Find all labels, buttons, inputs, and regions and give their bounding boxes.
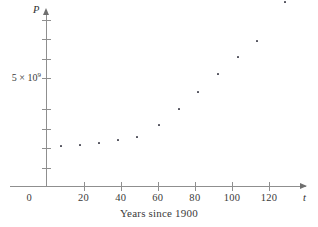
y-tick xyxy=(42,129,51,130)
data-point xyxy=(284,1,287,4)
x-tick xyxy=(84,182,85,191)
y-tick xyxy=(42,59,51,60)
x-tick-label: 20 xyxy=(69,192,99,203)
y-tick-label-5e9: 5 × 109 xyxy=(0,71,41,83)
data-point xyxy=(217,73,220,76)
data-point xyxy=(79,144,82,147)
data-point xyxy=(237,56,240,59)
y-tick-label-mantissa: 5 × 10 xyxy=(12,72,38,83)
data-point xyxy=(256,40,259,43)
x-tick-label: 40 xyxy=(106,192,136,203)
y-tick xyxy=(42,168,51,169)
y-tick xyxy=(42,39,51,40)
y-tick xyxy=(42,78,51,79)
y-tick xyxy=(42,20,51,21)
scatter-plot-figure: P t 5 × 109 0 20406080100120 Years since… xyxy=(0,0,318,227)
y-axis-symbol: P xyxy=(33,4,39,15)
x-tick xyxy=(269,182,270,191)
data-point xyxy=(197,91,200,94)
x-tick-label: 120 xyxy=(254,192,284,203)
x-tick xyxy=(121,182,122,191)
x-tick-label: 60 xyxy=(143,192,173,203)
y-tick xyxy=(42,109,51,110)
data-point xyxy=(117,139,120,142)
y-tick xyxy=(42,148,51,149)
x-tick-label: 100 xyxy=(217,192,247,203)
x-axis-symbol: t xyxy=(303,192,306,203)
x-tick-label: 80 xyxy=(180,192,210,203)
y-axis-arrow-icon xyxy=(43,8,49,15)
data-point xyxy=(178,108,181,111)
x-axis-arrow-icon xyxy=(300,183,307,189)
data-point xyxy=(136,136,139,139)
data-point xyxy=(98,142,101,145)
x-tick xyxy=(158,182,159,191)
x-tick xyxy=(232,182,233,191)
data-point xyxy=(158,124,161,127)
y-tick-label-exponent: 9 xyxy=(38,71,42,79)
x-tick xyxy=(195,182,196,191)
x-axis-title: Years since 1900 xyxy=(0,207,318,219)
origin-label: 0 xyxy=(22,192,36,203)
data-point xyxy=(60,145,63,148)
